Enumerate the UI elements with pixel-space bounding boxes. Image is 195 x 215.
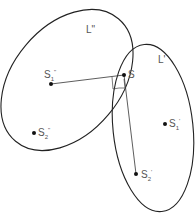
point-s [122, 73, 126, 77]
point-s2-prime [134, 172, 138, 176]
label-text: S [128, 69, 135, 80]
label-sup: " [54, 69, 56, 75]
label-text: L" [86, 24, 95, 35]
right-angle-marker-right [119, 79, 125, 88]
point-s1-prime [163, 122, 167, 126]
label-base: S [44, 69, 51, 80]
curve-l-prime [104, 40, 195, 215]
label-s2-prime: S2' [141, 169, 152, 182]
label-base: S [169, 118, 176, 129]
label-base: S [38, 127, 45, 138]
segment-s-s2p [124, 75, 136, 174]
point-s2-double-prime [32, 131, 36, 135]
label-text: L' [158, 54, 165, 65]
label-sup: " [48, 127, 50, 133]
label-sub: 2 [45, 134, 48, 140]
segment-s1dp-s [51, 75, 124, 84]
label-sup: ' [151, 169, 152, 175]
label-s1-prime: S1' [169, 118, 180, 131]
label-s1-double-prime: S1" [44, 69, 56, 82]
point-s1-double-prime [49, 82, 53, 86]
label-sub: 1 [51, 76, 54, 82]
diagram-canvas: L" L' S S1" S2" S1' S2' [0, 0, 195, 215]
diagram-svg [0, 0, 195, 215]
label-sub: 2 [148, 176, 151, 182]
label-l-double-prime: L" [86, 25, 95, 35]
label-base: S [141, 169, 148, 180]
curve-l-double-prime [0, 0, 160, 176]
label-s: S [128, 70, 135, 80]
label-s2-double-prime: S2" [38, 127, 50, 140]
label-sub: 1 [176, 125, 179, 131]
label-l-prime: L' [158, 55, 165, 65]
label-sup: ' [179, 118, 180, 124]
